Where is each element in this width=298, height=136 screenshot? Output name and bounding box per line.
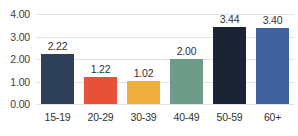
bar[interactable] (170, 59, 204, 104)
y-axis-tick-label: 2.00 (10, 54, 30, 64)
gridline (36, 104, 294, 105)
bar-value-label: 3.40 (251, 15, 294, 26)
bar[interactable] (127, 81, 161, 104)
bar-value-label: 2.22 (36, 41, 79, 52)
x-axis-tick-label: 50-59 (208, 111, 251, 123)
bar[interactable] (213, 27, 247, 104)
bar-value-label: 3.44 (208, 14, 251, 25)
bar-group: 2.22 (36, 14, 79, 104)
bar-group: 1.22 (79, 14, 122, 104)
bar-group: 2.00 (165, 14, 208, 104)
bar-group: 3.40 (251, 14, 294, 104)
bar[interactable] (84, 77, 118, 104)
x-axis-tick-label: 15-19 (36, 111, 79, 123)
bar-group: 1.02 (122, 14, 165, 104)
bar[interactable] (256, 28, 290, 105)
bar-value-label: 1.22 (79, 64, 122, 75)
bar-group: 3.44 (208, 14, 251, 104)
y-axis-tick-label: 1.00 (10, 77, 30, 87)
bar-chart: 4.003.002.001.000.00 2.221.221.022.003.4… (0, 0, 298, 136)
x-axis-tick-label: 20-29 (79, 111, 122, 123)
bars-layer: 2.221.221.022.003.443.40 (36, 14, 294, 104)
bar[interactable] (41, 54, 75, 104)
bar-value-label: 2.00 (165, 46, 208, 57)
y-axis-tick-label: 4.00 (10, 9, 30, 19)
x-axis: 15-1920-2930-3940-4950-5960+ (36, 108, 294, 130)
y-axis: 4.003.002.001.000.00 (0, 0, 33, 136)
y-axis-tick-label: 3.00 (10, 32, 30, 42)
x-axis-tick-label: 40-49 (165, 111, 208, 123)
bar-value-label: 1.02 (122, 68, 165, 79)
y-axis-tick-label: 0.00 (10, 99, 30, 109)
x-axis-tick-label: 30-39 (122, 111, 165, 123)
x-axis-tick-label: 60+ (251, 111, 294, 123)
plot-area: 2.221.221.022.003.443.40 (36, 14, 294, 104)
